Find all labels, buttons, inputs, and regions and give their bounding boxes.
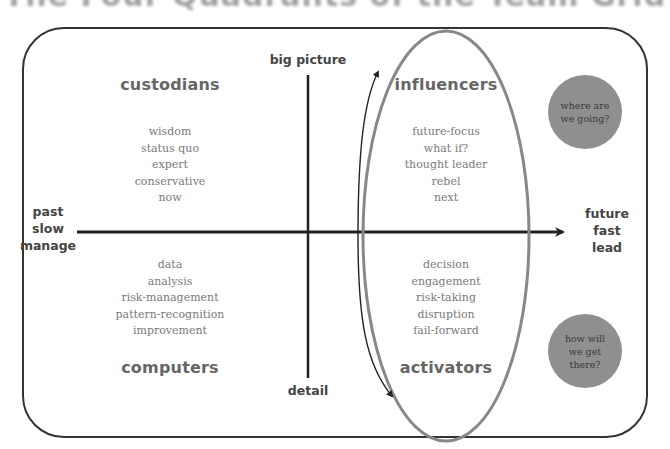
bubble-text: where are we going? — [561, 99, 610, 125]
quadrant-heading-computers: computers — [100, 358, 240, 377]
quadrant-heading-activators: activators — [376, 358, 516, 377]
list-item: next — [376, 190, 516, 207]
list-item: data — [90, 257, 250, 274]
list-item: risk-management — [90, 290, 250, 307]
list-item: engagement — [376, 274, 516, 291]
quadrant-list-influencers: future-focus what if? thought leader reb… — [376, 124, 516, 207]
axis-label-right: future fast lead — [572, 205, 642, 256]
list-item: risk-taking — [376, 290, 516, 307]
axis-label-left: past slow manage — [8, 203, 88, 254]
axis-label-manage: manage — [8, 237, 88, 254]
list-item: decision — [376, 257, 516, 274]
list-item: expert — [100, 157, 240, 174]
quadrant-list-computers: data analysis risk-management pattern-re… — [90, 257, 250, 340]
bubble-where-are-we-going: where are we going? — [548, 75, 622, 149]
axis-label-lead: lead — [572, 239, 642, 256]
cycle-arrow-up — [358, 72, 378, 236]
axis-label-big-picture: big picture — [258, 51, 358, 68]
quadrant-heading-custodians: custodians — [100, 75, 240, 94]
axis-label-future: future — [572, 205, 642, 222]
list-item: conservative — [100, 174, 240, 191]
list-item: status quo — [100, 141, 240, 158]
list-item: pattern-recognition — [90, 307, 250, 324]
list-item: thought leader — [376, 157, 516, 174]
list-item: rebel — [376, 174, 516, 191]
bubble-how-will-we-get-there: how will we get there? — [548, 314, 622, 388]
list-item: analysis — [90, 274, 250, 291]
list-item: what if? — [376, 141, 516, 158]
list-item: wisdom — [100, 124, 240, 141]
axis-label-detail: detail — [258, 382, 358, 399]
axis-label-past: past — [8, 203, 88, 220]
list-item: fail-forward — [376, 323, 516, 340]
bubble-text: how will we get there? — [565, 332, 605, 371]
list-item: future-focus — [376, 124, 516, 141]
list-item: now — [100, 190, 240, 207]
axis-label-slow: slow — [8, 220, 88, 237]
quadrant-list-activators: decision engagement risk-taking disrupti… — [376, 257, 516, 340]
quadrant-list-custodians: wisdom status quo expert conservative no… — [100, 124, 240, 207]
axis-label-fast: fast — [572, 222, 642, 239]
quadrant-heading-influencers: influencers — [376, 75, 516, 94]
list-item: disruption — [376, 307, 516, 324]
list-item: improvement — [90, 323, 250, 340]
